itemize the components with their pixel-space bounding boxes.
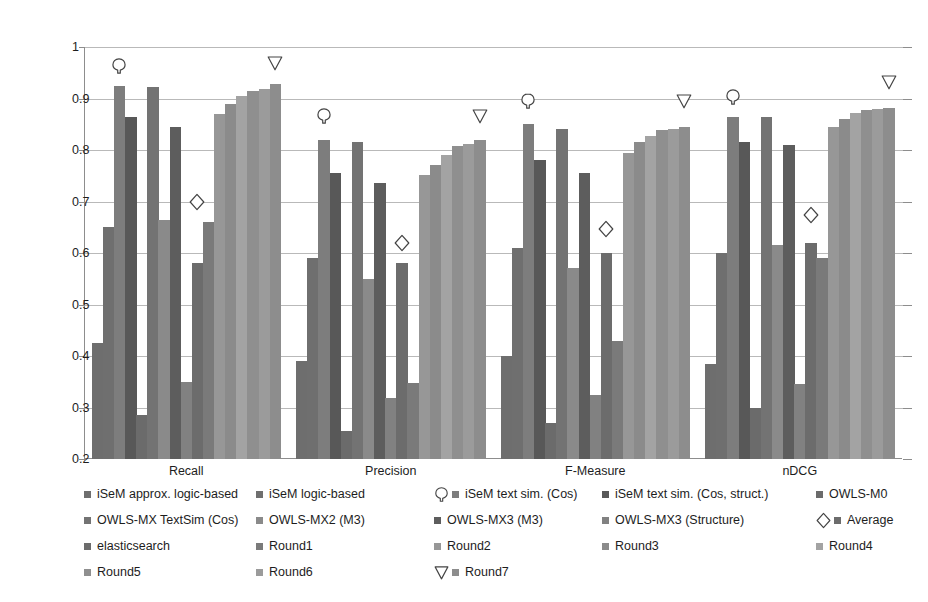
bar-chart: 10.90.80.70.60.50.40.30.2 RecallPrecisio… <box>0 0 928 602</box>
bar <box>474 140 486 459</box>
legend-item-isem-approx-logic-based[interactable]: iSeM approx. logic-based <box>84 481 238 507</box>
bar <box>545 423 557 459</box>
y-axis-tick-right <box>903 150 912 151</box>
bar <box>883 108 895 459</box>
legend-swatch-icon <box>452 491 459 498</box>
legend-item-round3[interactable]: Round3 <box>602 533 659 559</box>
bar <box>441 155 453 459</box>
y-axis-tick <box>79 47 85 48</box>
legend-item-round1[interactable]: Round1 <box>256 533 313 559</box>
legend-swatch-icon <box>834 517 841 524</box>
y-axis-tick-right <box>903 305 912 306</box>
bar <box>203 222 215 459</box>
bar <box>225 104 237 459</box>
bar <box>318 140 330 459</box>
bar <box>247 91 259 459</box>
bar <box>512 248 524 459</box>
legend-item-owls-mx2-m3-[interactable]: OWLS-MX2 (M3) <box>256 507 365 533</box>
bar <box>374 183 386 459</box>
bar <box>839 119 851 459</box>
bar <box>828 127 840 459</box>
bar <box>92 343 104 459</box>
legend-item-round6[interactable]: Round6 <box>256 559 313 585</box>
legend-label: Round6 <box>269 566 313 579</box>
bar <box>396 263 408 459</box>
x-axis-label-f-measure: F-Measure <box>565 464 625 478</box>
bar <box>463 144 475 459</box>
bar <box>430 165 442 459</box>
bar <box>385 398 397 459</box>
legend-balloon-icon <box>434 486 449 503</box>
legend-label: Round2 <box>447 540 491 553</box>
legend-label: Round4 <box>829 540 873 553</box>
bar <box>590 395 602 459</box>
bar <box>501 356 513 459</box>
bar <box>783 145 795 459</box>
bar-group-precision <box>296 47 485 459</box>
y-axis-tick-right <box>903 356 912 357</box>
bar <box>523 124 535 459</box>
bar <box>623 153 635 459</box>
chart-legend: iSeM approx. logic-basediSeM logic-based… <box>84 481 914 593</box>
legend-item-round4[interactable]: Round4 <box>816 533 873 559</box>
bar <box>259 89 271 459</box>
legend-item-owls-mx-textsim-cos-[interactable]: OWLS-MX TextSim (Cos) <box>84 507 238 533</box>
y-axis-tick-right <box>903 408 912 409</box>
x-axis-label-ndcg: nDCG <box>782 464 817 478</box>
legend-swatch-icon <box>256 569 263 576</box>
legend-label: iSeM text sim. (Cos, struct.) <box>615 488 769 501</box>
legend-swatch-icon <box>452 569 459 576</box>
bar <box>761 117 773 459</box>
legend-item-round7[interactable]: Round7 <box>434 559 509 585</box>
bar <box>270 84 282 459</box>
bar-group-f-measure <box>501 47 690 459</box>
bar <box>352 142 364 459</box>
bar <box>750 408 762 460</box>
bar <box>214 114 226 459</box>
bar <box>645 136 657 459</box>
legend-item-owls-mx3-m3-[interactable]: OWLS-MX3 (M3) <box>434 507 543 533</box>
bar <box>556 129 568 459</box>
legend-item-isem-text-sim-cos-[interactable]: iSeM text sim. (Cos) <box>434 481 578 507</box>
legend-label: elasticsearch <box>97 540 170 553</box>
legend-triangle-icon <box>434 564 449 581</box>
legend-row: Round5Round6Round7 <box>84 559 914 585</box>
bar <box>407 383 419 459</box>
legend-row: OWLS-MX TextSim (Cos)OWLS-MX2 (M3)OWLS-M… <box>84 507 914 533</box>
legend-label: Round1 <box>269 540 313 553</box>
legend-label: Round7 <box>465 566 509 579</box>
legend-label: OWLS-MX3 (Structure) <box>615 514 744 527</box>
legend-label: OWLS-MX TextSim (Cos) <box>97 514 238 527</box>
bar <box>114 86 126 459</box>
legend-label: OWLS-MX3 (M3) <box>447 514 543 527</box>
legend-swatch-icon <box>602 517 609 524</box>
legend-item-round5[interactable]: Round5 <box>84 559 141 585</box>
bar <box>181 382 193 459</box>
y-axis-tick-right <box>903 253 912 254</box>
bar <box>419 175 431 459</box>
bar <box>567 268 579 459</box>
legend-swatch-icon <box>84 569 91 576</box>
legend-item-round2[interactable]: Round2 <box>434 533 491 559</box>
bar <box>612 341 624 459</box>
bar <box>656 130 668 459</box>
legend-swatch-icon <box>602 491 609 498</box>
legend-item-owls-m0[interactable]: OWLS-M0 <box>816 481 887 507</box>
legend-item-owls-mx3-structure-[interactable]: OWLS-MX3 (Structure) <box>602 507 744 533</box>
bar <box>296 361 308 459</box>
bar <box>601 253 613 459</box>
bar-group-recall <box>92 47 281 459</box>
y-axis-tick-right <box>903 99 912 100</box>
legend-label: OWLS-MX2 (M3) <box>269 514 365 527</box>
y-axis-tick-right <box>903 459 912 460</box>
legend-label: iSeM logic-based <box>269 488 365 501</box>
bar <box>794 384 806 459</box>
bar <box>158 220 170 459</box>
legend-label: iSeM approx. logic-based <box>97 488 238 501</box>
bar <box>679 127 691 459</box>
legend-item-isem-text-sim-cos-struct-[interactable]: iSeM text sim. (Cos, struct.) <box>602 481 769 507</box>
legend-swatch-icon <box>84 491 91 498</box>
legend-item-average[interactable]: Average <box>816 507 893 533</box>
legend-item-isem-logic-based[interactable]: iSeM logic-based <box>256 481 365 507</box>
legend-item-elasticsearch[interactable]: elasticsearch <box>84 533 170 559</box>
